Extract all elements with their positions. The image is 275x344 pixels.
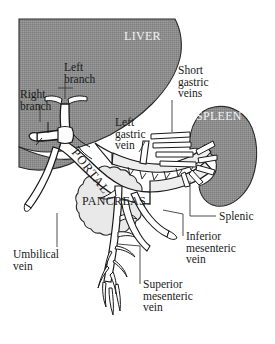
spleen-label: SPLEEN — [196, 111, 242, 123]
short-gastric-veins — [151, 132, 196, 167]
left-gastric-vein-label: Left gastric vein — [115, 117, 146, 152]
superior-mesenteric-vein-label: Superior mesenteric vein — [143, 279, 193, 314]
pancreas-label: PANCREAS — [82, 196, 146, 208]
liver-label: LIVER — [124, 31, 161, 43]
short-gastric-veins-label: Short gastric veins — [178, 65, 209, 100]
umbilical-vein-label: Umbilical vein — [13, 249, 59, 272]
portal-venous-system-figure — [0, 0, 275, 344]
right-branch-label: Right branch — [20, 89, 51, 112]
portal-confluence — [95, 143, 112, 164]
diagram-canvas: LIVER SPLEEN PANCREAS PORTAL Right branc… — [0, 0, 275, 344]
imv-tip — [167, 231, 177, 239]
left-branch-label: Left branch — [64, 62, 95, 85]
splenic-vein-label: Splenic — [219, 211, 254, 223]
inferior-mesenteric-vein-label: Inferior mesenteric vein — [186, 231, 236, 266]
portal-branch-confluence — [58, 127, 74, 144]
